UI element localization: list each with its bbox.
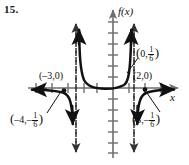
- label-point-right-low: (3,–16): [132, 112, 160, 129]
- leader-lines: [47, 58, 160, 113]
- leader-right-low: [147, 93, 160, 112]
- left-low-numerator: 1: [32, 112, 38, 120]
- coordinate-plot: [0, 0, 189, 165]
- graph-figure: 15.: [0, 0, 189, 165]
- left-low-x: –4,: [14, 114, 27, 125]
- left-low-sign: –: [27, 114, 32, 125]
- y-intercept-close-paren: ): [155, 45, 159, 60]
- x-axis-label: x: [170, 92, 175, 103]
- label-x-intercept-left: (–3,0): [39, 71, 63, 81]
- point-x-intercept-left: [62, 88, 67, 93]
- y-intercept-fraction: 16: [148, 46, 154, 63]
- label-x-intercept-right: (2,0): [133, 71, 152, 81]
- label-y-intercept: (0,16): [136, 46, 159, 63]
- curve-left-branch-arrow: [72, 106, 73, 124]
- curve-middle-branch: [79, 30, 131, 89]
- left-low-close-paren: ): [39, 111, 43, 126]
- left-low-fraction: 16: [32, 112, 38, 129]
- y-intercept-x: 0,: [140, 48, 148, 59]
- y-intercept-denominator: 6: [148, 54, 154, 63]
- point-x-intercept-right: [143, 87, 148, 92]
- right-low-sign: –: [144, 114, 149, 125]
- leader-left-low: [47, 93, 60, 113]
- right-low-fraction: 16: [149, 112, 155, 129]
- y-intercept-numerator: 1: [148, 46, 154, 54]
- label-point-left-low: (–4,–16): [10, 112, 43, 129]
- right-low-numerator: 1: [149, 112, 155, 120]
- right-low-close-paren: ): [156, 111, 160, 126]
- axes: [28, 10, 178, 158]
- left-low-denominator: 6: [32, 120, 38, 129]
- function-label: f(x): [118, 6, 133, 17]
- right-low-denominator: 6: [149, 120, 155, 129]
- right-low-x: 3,: [136, 114, 144, 125]
